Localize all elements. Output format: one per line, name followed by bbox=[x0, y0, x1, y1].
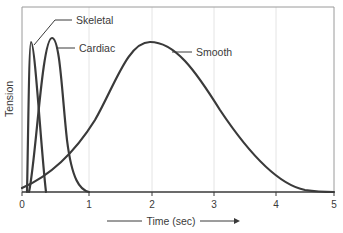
x-axis-label: Time (sec) bbox=[146, 215, 195, 227]
y-axis-label: Tension bbox=[3, 81, 15, 117]
x-tick-labels: 0 1 2 3 4 5 bbox=[19, 199, 337, 210]
muscle-twitch-chart: 0 1 2 3 4 5 Time (sec) Tension Skeletal … bbox=[0, 0, 343, 233]
svg-text:4: 4 bbox=[273, 199, 279, 210]
svg-text:0: 0 bbox=[19, 199, 25, 210]
svg-text:1: 1 bbox=[86, 199, 92, 210]
plot-frame bbox=[22, 7, 334, 192]
smooth-label: Smooth bbox=[196, 46, 232, 58]
svg-text:5: 5 bbox=[331, 199, 337, 210]
cardiac-label: Cardiac bbox=[79, 42, 115, 54]
arrow-right-icon bbox=[234, 218, 240, 224]
smooth-curve bbox=[22, 42, 334, 192]
cardiac-curve bbox=[29, 38, 89, 192]
svg-text:3: 3 bbox=[211, 199, 217, 210]
svg-text:2: 2 bbox=[149, 199, 155, 210]
gridlines bbox=[89, 7, 276, 192]
skeletal-label: Skeletal bbox=[76, 14, 113, 26]
